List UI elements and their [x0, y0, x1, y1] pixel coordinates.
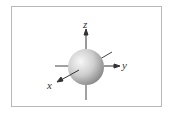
x-label: x: [46, 79, 52, 91]
x-axis-negative: [100, 52, 112, 59]
s-orbital-diagram: z y x: [0, 0, 173, 113]
y-label: y: [121, 59, 127, 71]
y-arrow-icon: [114, 64, 120, 68]
z-label: z: [82, 18, 88, 30]
x-arrow-icon: [57, 77, 63, 82]
sphere: [68, 49, 104, 85]
